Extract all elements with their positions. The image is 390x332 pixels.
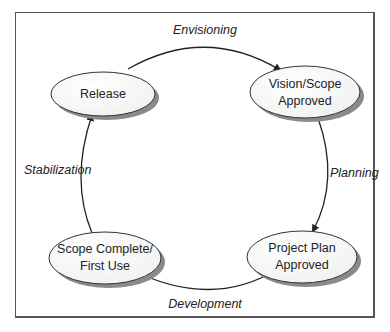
node-vision-scope-approved: Vision/Scope Approved	[250, 66, 364, 122]
node-project-plan-approved: Project Plan Approved	[247, 231, 361, 287]
node-label-line-1: Scope Complete/	[57, 242, 153, 256]
node-ellipse	[247, 231, 357, 283]
node-label-line-2: Approved	[275, 258, 329, 272]
diagram-canvas: Release Vision/Scope Approved Project Pl…	[0, 0, 390, 332]
node-label-line-1: Project Plan	[268, 241, 335, 255]
node-ellipse	[250, 66, 360, 118]
node-label-line-2: Approved	[278, 94, 332, 108]
figure-caption-cropped	[15, 323, 375, 332]
node-label-line-1: Vision/Scope	[269, 77, 342, 91]
node-scope-complete-first-use: Scope Complete/ First Use	[49, 232, 165, 288]
node-label: Release	[80, 87, 126, 101]
edge-label-development: Development	[168, 297, 242, 311]
cycle-diagram: Release Vision/Scope Approved Project Pl…	[0, 0, 390, 332]
edge-label-planning: Planning	[330, 166, 379, 180]
edge-label-envisioning: Envisioning	[173, 23, 237, 37]
edge-label-stabilization: Stabilization	[24, 163, 91, 177]
node-ellipse	[49, 232, 161, 284]
node-release: Release	[51, 72, 159, 120]
arrow-envisioning	[128, 47, 280, 70]
arrow-planning	[313, 118, 328, 231]
node-label-line-2: First Use	[80, 259, 130, 273]
